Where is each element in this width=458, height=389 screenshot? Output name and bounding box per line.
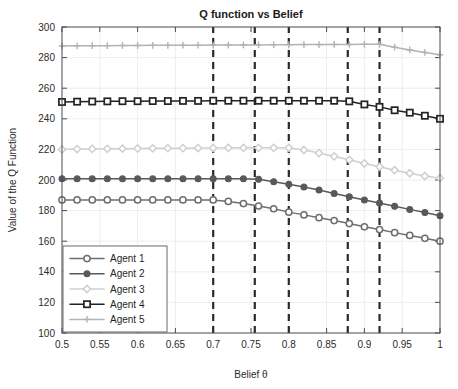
data-marker: [225, 176, 231, 182]
data-marker: [195, 176, 201, 182]
data-marker: [180, 176, 186, 182]
data-marker: [271, 98, 277, 104]
data-marker: [301, 98, 307, 104]
data-marker: [195, 98, 201, 104]
data-marker: [346, 98, 352, 104]
data-marker: [225, 98, 231, 104]
data-marker: [422, 235, 428, 241]
data-marker: [316, 215, 322, 221]
data-marker: [84, 256, 90, 262]
data-marker: [255, 203, 261, 209]
data-marker: [89, 176, 95, 182]
data-marker: [331, 191, 337, 197]
data-marker: [74, 99, 80, 105]
legend-item-label: Agent 3: [110, 284, 145, 295]
data-marker: [392, 230, 398, 236]
x-tick-label: 0.6: [131, 339, 145, 350]
data-marker: [256, 176, 262, 182]
data-marker: [165, 176, 171, 182]
data-marker: [316, 98, 322, 104]
data-marker: [286, 98, 292, 104]
data-marker: [376, 226, 382, 232]
data-marker: [422, 113, 428, 119]
data-marker: [316, 187, 322, 193]
data-marker: [210, 197, 216, 203]
data-marker: [84, 301, 90, 307]
y-tick-label: 180: [38, 205, 55, 216]
data-marker: [150, 98, 156, 104]
y-axis-label: Value of the Q Function: [7, 128, 18, 232]
data-marker: [361, 224, 367, 230]
data-marker: [286, 181, 292, 187]
y-tick-label: 220: [38, 144, 55, 155]
data-marker: [89, 98, 95, 104]
y-tick-label: 140: [38, 266, 55, 277]
data-marker: [377, 200, 383, 206]
data-marker: [210, 98, 216, 104]
data-marker: [255, 98, 261, 104]
chart-figure: Q function vs Belief 1001201401601802002…: [0, 0, 458, 389]
data-marker: [210, 176, 216, 182]
x-tick-label: 0.55: [90, 339, 110, 350]
data-marker: [135, 197, 141, 203]
legend-item-label: Agent 1: [110, 253, 145, 264]
data-marker: [376, 104, 382, 110]
data-marker: [422, 210, 428, 216]
data-marker: [392, 107, 398, 113]
x-tick-label: 0.5: [55, 339, 69, 350]
data-marker: [150, 176, 156, 182]
data-marker: [120, 176, 126, 182]
y-tick-label: 200: [38, 175, 55, 186]
x-tick-label: 0.85: [317, 339, 337, 350]
data-marker: [195, 197, 201, 203]
x-tick-label: 0.7: [206, 339, 220, 350]
data-marker: [74, 176, 80, 182]
x-tick-label: 0.95: [392, 339, 412, 350]
data-marker: [271, 179, 277, 185]
data-marker: [407, 206, 413, 212]
y-tick-label: 260: [38, 83, 55, 94]
legend-item-label: Agent 5: [110, 314, 145, 325]
data-marker: [331, 98, 337, 104]
data-marker: [240, 98, 246, 104]
data-marker: [104, 98, 110, 104]
data-marker: [241, 176, 247, 182]
data-marker: [346, 221, 352, 227]
chart-legend[interactable]: Agent 1Agent 2Agent 3Agent 4Agent 5: [63, 246, 167, 332]
x-tick-label: 1: [437, 339, 443, 350]
data-marker: [119, 98, 125, 104]
data-marker: [346, 194, 352, 200]
chart-canvas: Q function vs Belief 1001201401601802002…: [0, 0, 458, 389]
data-marker: [135, 98, 141, 104]
legend-item-label: Agent 2: [110, 268, 145, 279]
y-tick-label: 280: [38, 52, 55, 63]
data-marker: [240, 200, 246, 206]
x-tick-label: 0.9: [357, 339, 371, 350]
y-tick-label: 240: [38, 113, 55, 124]
y-tick-label: 160: [38, 236, 55, 247]
data-marker: [362, 197, 368, 203]
data-marker: [225, 198, 231, 204]
x-axis-label: Belief θ: [234, 369, 268, 380]
data-marker: [89, 197, 95, 203]
data-marker: [150, 197, 156, 203]
data-marker: [104, 176, 110, 182]
data-marker: [180, 197, 186, 203]
data-marker: [74, 197, 80, 203]
data-marker: [271, 206, 277, 212]
y-tick-label: 300: [38, 22, 55, 33]
legend-item-label: Agent 4: [110, 299, 145, 310]
y-tick-label: 100: [38, 328, 55, 339]
data-marker: [84, 271, 90, 277]
x-tick-label: 0.75: [241, 339, 261, 350]
data-marker: [165, 197, 171, 203]
data-marker: [361, 101, 367, 107]
data-marker: [165, 98, 171, 104]
data-marker: [104, 197, 110, 203]
chart-title: Q function vs Belief: [199, 8, 303, 20]
data-marker: [180, 98, 186, 104]
data-marker: [135, 176, 141, 182]
x-tick-label: 0.8: [282, 339, 296, 350]
data-marker: [331, 217, 337, 223]
data-marker: [392, 203, 398, 209]
